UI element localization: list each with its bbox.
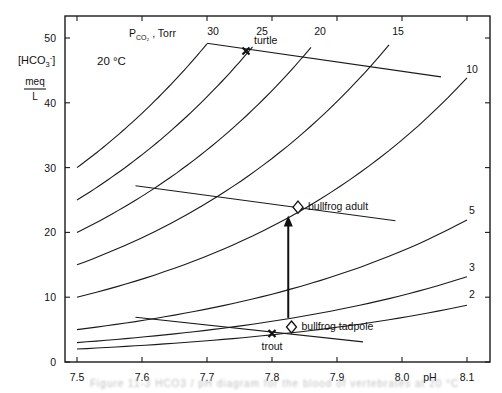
y-tick-label: 20 <box>44 226 56 238</box>
isopleth-label-2: 2 <box>469 288 475 300</box>
isopleth-5 <box>77 220 467 330</box>
y-unit-numerator: meq <box>25 76 44 87</box>
arrows <box>284 216 293 318</box>
isopleth-10 <box>77 78 467 297</box>
y-tick-label: 30 <box>44 162 56 174</box>
annotations: 20 °CPCO₂ , Torr <box>97 27 176 67</box>
y-tick-label: 0 <box>50 356 56 368</box>
isopleth-title: PCO₂ , Torr <box>129 27 176 41</box>
bullfrog-adult-label: bullfrog adult <box>308 200 368 212</box>
isopleth-label-3: 3 <box>469 261 475 273</box>
y-axis-label: [HCO3-] <box>18 53 55 69</box>
bullfrog-tadpole-label: bullfrog tadpole <box>302 320 374 332</box>
isopleth-15 <box>77 45 389 265</box>
trout-x-marker-icon <box>269 330 276 337</box>
plot-frame <box>65 16 490 362</box>
y-tick-label: 10 <box>44 291 56 303</box>
turtle-label: turtle <box>254 34 278 46</box>
axes-box <box>65 16 490 362</box>
y-axis: 01020304050[HCO3-]meqL <box>18 32 490 368</box>
trout-label: trout <box>261 340 282 352</box>
isopleth-label-15: 15 <box>392 25 404 37</box>
chart: 7.57.67.77.87.98.08.1pH 01020304050[HCO3… <box>0 0 502 393</box>
isopleth-25 <box>77 47 253 200</box>
bullfrog-adult-diamond-marker-icon <box>293 201 303 213</box>
y-tick-label: 50 <box>44 32 56 44</box>
y-tick-label: 40 <box>44 97 56 109</box>
figure-caption: Figure 11-3 HCO3 / pH diagram for the bl… <box>90 378 490 390</box>
data-points: turtlebullfrog adultbullfrog tadpoletrou… <box>243 34 374 353</box>
isopleth-label-30: 30 <box>207 25 219 37</box>
isopleth-label-10: 10 <box>466 63 478 75</box>
isopleth-label-20: 20 <box>314 25 326 37</box>
x-axis: 7.57.67.77.87.98.08.1pH <box>70 16 475 383</box>
bullfrog-tadpole-diamond-marker-icon <box>287 321 297 333</box>
arrow-head-icon <box>284 216 293 227</box>
y-unit-denominator: L <box>32 91 38 102</box>
x-tick-label: 7.5 <box>70 371 85 383</box>
isopleth-label-5: 5 <box>469 204 475 216</box>
temperature-label: 20 °C <box>97 55 126 67</box>
